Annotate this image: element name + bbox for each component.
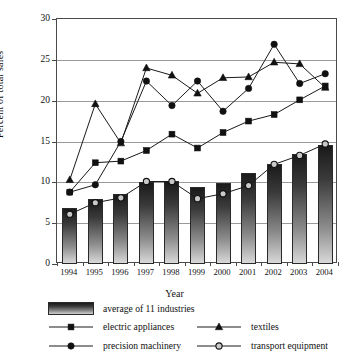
data-point-marker <box>245 73 252 80</box>
data-point-marker <box>195 145 201 151</box>
chart-legend: average of 11 industrieselectric applian… <box>0 300 349 355</box>
x-tick-label: 1998 <box>162 268 179 277</box>
data-point-marker <box>118 158 124 164</box>
data-point-marker <box>118 138 124 144</box>
data-point-marker <box>169 102 175 108</box>
legend-label: average of 11 industries <box>103 303 195 314</box>
y-tick-label: 25 <box>41 55 51 65</box>
legend-row: average of 11 industries <box>0 300 349 317</box>
line-series-precision-machinery <box>67 41 329 195</box>
data-point-marker <box>143 178 149 184</box>
data-point-marker <box>194 196 200 202</box>
data-point-marker <box>245 183 251 189</box>
line-series-textiles <box>66 58 329 182</box>
legend-label: electric appliances <box>103 321 174 332</box>
data-point-marker <box>246 118 252 124</box>
data-point-marker <box>118 195 124 201</box>
data-point-marker <box>169 131 175 137</box>
data-point-marker <box>143 78 149 84</box>
legend-label: transport equipment <box>251 340 328 351</box>
data-point-marker <box>92 182 98 188</box>
data-point-marker <box>92 160 98 166</box>
y-tick-label: 0 <box>45 259 50 269</box>
x-tick-label: 1997 <box>137 268 154 277</box>
y-tick-label: 15 <box>41 137 51 147</box>
data-point-marker <box>194 78 200 84</box>
line-series-electric-appliances <box>67 83 328 195</box>
y-axis-title: Percent of total sales <box>0 0 5 138</box>
data-point-marker <box>220 130 226 136</box>
x-tick-label: 2001 <box>239 268 256 277</box>
legend-entry-transport-equipment[interactable]: transport equipment <box>196 340 328 352</box>
x-tick-label: 2004 <box>316 268 333 277</box>
plot-area: 051015202530 <box>56 18 337 263</box>
x-tick-mark <box>338 262 339 266</box>
legend-entry-precision-machinery[interactable]: precision machinery <box>48 340 181 352</box>
legend-entry-average-of-11-industries[interactable]: average of 11 industries <box>48 302 195 315</box>
data-point-marker <box>66 176 73 183</box>
data-point-marker <box>322 141 328 147</box>
data-point-marker <box>144 148 150 154</box>
legend-label: precision machinery <box>103 340 181 351</box>
x-tick-label: 1999 <box>188 268 205 277</box>
legend-swatch-open-circle <box>196 340 242 352</box>
x-tick-label: 1996 <box>111 268 128 277</box>
x-tick-label: 2000 <box>213 268 230 277</box>
legend-swatch-filled-triangle <box>196 321 242 333</box>
data-point-marker <box>220 191 226 197</box>
data-point-marker <box>245 85 251 91</box>
y-tick-label: 5 <box>45 218 50 228</box>
y-tick-label: 10 <box>41 178 51 188</box>
data-point-marker <box>271 161 277 167</box>
data-point-marker <box>194 89 201 96</box>
data-point-marker <box>297 152 303 158</box>
x-tick-label: 1994 <box>60 268 77 277</box>
x-axis-title: Year <box>0 288 349 299</box>
data-point-marker <box>220 108 226 114</box>
line-series-layer <box>57 19 338 264</box>
data-point-marker <box>92 100 99 107</box>
data-point-marker <box>322 71 328 77</box>
y-tick-label: 30 <box>41 14 51 24</box>
data-point-marker <box>67 189 73 195</box>
data-point-marker <box>143 64 150 71</box>
legend-swatch-filled-circle <box>48 340 94 352</box>
data-point-marker <box>297 97 303 103</box>
data-point-marker <box>296 80 302 86</box>
legend-entry-electric-appliances[interactable]: electric appliances <box>48 321 174 333</box>
legend-entry-textiles[interactable]: textiles <box>196 321 279 333</box>
data-point-marker <box>271 112 277 118</box>
y-tick-label: 20 <box>41 96 51 106</box>
x-tick-label: 2003 <box>290 268 307 277</box>
legend-row: precision machinerytransport equipment <box>0 336 349 355</box>
line-series-transport-equipment <box>67 141 329 217</box>
legend-label: textiles <box>251 321 279 332</box>
data-point-marker <box>169 178 175 184</box>
legend-swatch-filled-square <box>48 321 94 333</box>
legend-swatch-bar <box>48 302 94 315</box>
data-point-marker <box>92 200 98 206</box>
x-tick-label: 2002 <box>265 268 282 277</box>
data-point-marker <box>271 41 277 47</box>
x-tick-label: 1995 <box>86 268 103 277</box>
data-point-marker <box>67 211 73 217</box>
data-point-marker <box>219 74 226 81</box>
chart-figure: Percent of total sales 051015202530 Year… <box>0 0 349 360</box>
legend-row: electric appliancestextiles <box>0 317 349 336</box>
data-point-marker <box>270 58 277 65</box>
